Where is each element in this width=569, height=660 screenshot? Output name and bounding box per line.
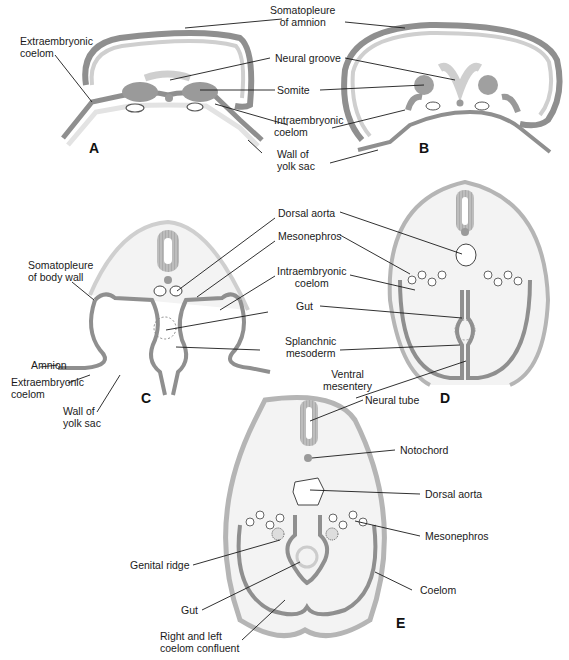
label-gut-e: Gut [181, 604, 198, 616]
label-notochord: Notochord [400, 444, 448, 456]
label-coelom: Coelom [420, 584, 456, 596]
label-dorsal-aorta-e: Dorsal aorta [425, 488, 482, 500]
label-neural-groove: Neural groove [275, 52, 341, 64]
label-ventral-mesentery: Ventral mesentery [323, 368, 372, 392]
panel-label-c: C [141, 390, 151, 406]
label-gut-cd: Gut [296, 300, 313, 312]
panel-b-drawing [344, 25, 559, 152]
panel-label-d: D [440, 390, 450, 406]
panel-label-a: A [89, 140, 99, 156]
panel-label-b: B [419, 140, 429, 156]
label-splanchnic-mesoderm: Splanchnic mesoderm [285, 335, 336, 359]
label-amnion: Amnion [31, 359, 67, 371]
label-coelom-confluent: Right and left coelom confluent [160, 630, 239, 654]
label-neural-tube: Neural tube [365, 394, 419, 406]
label-somite: Somite [277, 84, 310, 96]
label-somatopleure-of-body-wall: Somatopleure of body wall [28, 259, 93, 283]
panel-label-e: E [396, 615, 405, 631]
label-extraembryonic-coelom-c: Extraembryonic coelom [11, 376, 84, 400]
embryo-folding-diagram [0, 0, 569, 660]
label-mesonephros-cd: Mesonephros [278, 230, 342, 242]
panel-d-drawing [390, 182, 548, 385]
panel-e-drawing [226, 398, 385, 636]
label-somatopleure-of-amnion: Somatopleure of amnion [270, 4, 335, 28]
label-mesonephros-e: Mesonephros [425, 530, 489, 542]
label-intraembryonic-coelom-ab: Intraembryonic coelom [274, 114, 343, 138]
label-intraembryonic-coelom-cd: Intraembryonic coelom [277, 265, 346, 289]
label-wall-of-yolk-sac-ab: Wall of yolk sac [277, 148, 315, 172]
label-genital-ridge: Genital ridge [130, 559, 190, 571]
label-dorsal-aorta-cd: Dorsal aorta [278, 207, 335, 219]
label-wall-of-yolk-sac-c: Wall of yolk sac [63, 405, 101, 429]
label-extraembryonic-coelom-a: Extraembryonic coelom [20, 35, 93, 59]
panel-c-drawing [58, 222, 270, 395]
